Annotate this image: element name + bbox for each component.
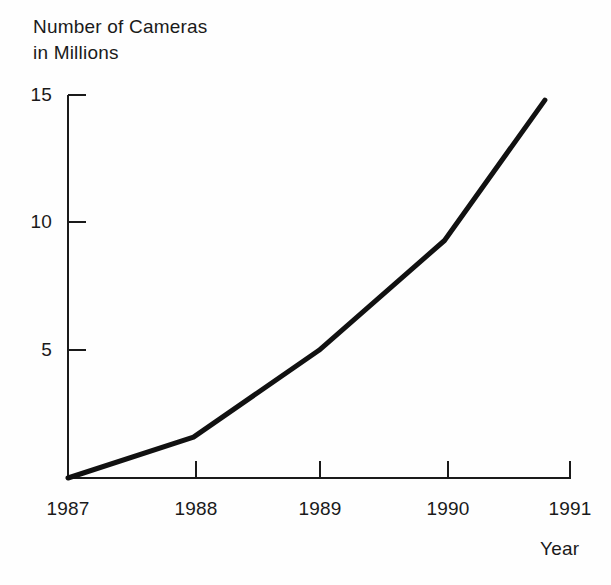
data-series-line: [68, 100, 545, 478]
x-tick-label-1991: 1991: [548, 498, 591, 520]
x-tick-label-1990: 1990: [426, 498, 469, 520]
y-tick-label-15: 15: [12, 84, 52, 106]
y-tick-label-10: 10: [12, 211, 52, 233]
line-chart-figure: Number of Cameras in Millions 15 10 5 19…: [0, 0, 611, 585]
x-tick-label-1987: 1987: [46, 498, 89, 520]
y-tick-label-5: 5: [12, 339, 52, 361]
x-axis-title: Year: [540, 538, 579, 560]
x-tick-label-1989: 1989: [298, 498, 341, 520]
x-tick-label-1988: 1988: [174, 498, 217, 520]
